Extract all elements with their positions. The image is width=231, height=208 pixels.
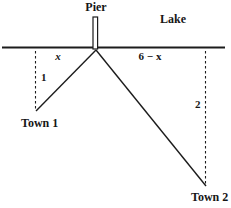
town2-label: Town 2: [191, 191, 228, 204]
town1-depth-label: 1: [41, 71, 47, 83]
pier-post: [93, 17, 98, 49]
left-segment-label: x: [55, 50, 61, 62]
pier-label: Pier: [85, 1, 106, 14]
pier-lake-diagram: Pier Lake x 6 − x 1 2 Town 1 Town 2: [0, 0, 231, 208]
pier-to-town2-path: [96, 50, 206, 186]
town1-label: Town 1: [21, 117, 58, 130]
town2-depth-label: 2: [195, 98, 201, 110]
lake-label: Lake: [160, 13, 186, 26]
right-segment-label: 6 − x: [139, 50, 162, 62]
